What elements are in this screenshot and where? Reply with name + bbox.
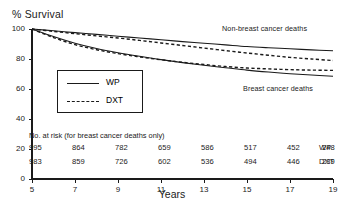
y-tick-label: 60	[3, 84, 25, 93]
risk-table-row-label: WP	[319, 143, 331, 152]
legend-item-wp: WP	[58, 77, 142, 91]
legend-line-dashed-icon	[67, 101, 99, 102]
annotation-non-breast-cancer-deaths: Non-breast cancer deaths	[222, 24, 307, 33]
x-axis-title: Years	[0, 188, 344, 200]
risk-table-cell: 536	[201, 157, 214, 166]
risk-table-cell: 782	[115, 143, 128, 152]
y-tick-label: 0	[3, 174, 25, 183]
annotation-breast-cancer-deaths: Breast cancer deaths	[243, 84, 313, 93]
survival-chart-figure: % Survival 020406080100 5791113151719 No…	[0, 0, 344, 208]
y-tick-label: 40	[3, 114, 25, 123]
risk-table-cell: 452	[287, 143, 300, 152]
legend-label-wp: WP	[106, 77, 120, 87]
risk-table-cell: 995	[29, 143, 42, 152]
risk-table-cell: 659	[158, 143, 171, 152]
risk-table-cell: 983	[29, 157, 42, 166]
risk-table-cell: 864	[72, 143, 85, 152]
legend-line-solid-icon	[67, 83, 99, 84]
risk-table-title: No. at risk (for breast cancer deaths on…	[29, 131, 165, 140]
series-line	[32, 29, 333, 70]
risk-table-cell: 586	[201, 143, 214, 152]
risk-table-cell: 859	[72, 157, 85, 166]
legend-label-dxt: DXT	[106, 95, 123, 105]
risk-table-cell: 726	[115, 157, 128, 166]
legend: WP DXT	[57, 70, 143, 113]
risk-table-cell: 446	[287, 157, 300, 166]
legend-item-dxt: DXT	[58, 95, 142, 109]
risk-table-cell: 494	[244, 157, 257, 166]
risk-table-cell: 517	[244, 143, 257, 152]
y-tick-label: 20	[3, 144, 25, 153]
y-tick-label: 100	[3, 24, 25, 33]
risk-table-row-label: DXT	[319, 157, 334, 166]
y-tick-label: 80	[3, 54, 25, 63]
risk-table-cell: 602	[158, 157, 171, 166]
